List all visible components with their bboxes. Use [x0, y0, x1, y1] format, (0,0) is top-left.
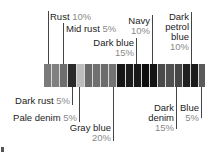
leader-dark-rust	[72, 87, 73, 105]
label-rust: Rust 10%	[50, 12, 91, 22]
label-blue-pct: 5%	[180, 113, 199, 123]
label-gray-blue-pct: 20%	[70, 133, 111, 143]
label-navy-pct: 10%	[128, 26, 150, 36]
leader-pale-denim	[79, 87, 80, 122]
bar-segment	[150, 64, 157, 87]
leader-rust	[48, 11, 49, 64]
label-dark-petrol-blue: Dark petrol blue 10%	[165, 12, 189, 52]
bar-segment	[134, 64, 141, 87]
leader-dark-denim	[176, 87, 177, 129]
bar-segment	[199, 64, 205, 87]
bar-segment	[142, 64, 149, 87]
bar-segment	[117, 64, 124, 87]
leader-dark-blue	[136, 38, 137, 64]
bar-segment	[52, 64, 59, 87]
leader-navy	[152, 15, 153, 64]
bar-segment	[175, 64, 182, 87]
bar-segment	[158, 64, 165, 87]
label-dark-blue-pct: 15%	[93, 48, 134, 58]
bar-segment	[101, 64, 108, 87]
bar-segment	[183, 64, 190, 87]
bar-segment	[60, 64, 67, 87]
label-rust-name: Rust	[50, 11, 70, 22]
leader-blue	[201, 87, 202, 118]
label-pale-denim-name: Pale denim	[13, 112, 61, 123]
label-pale-denim: Pale denim 5%	[13, 113, 77, 123]
bar-segment	[109, 64, 116, 87]
leader-mid-rust	[63, 23, 64, 64]
bar-segment	[85, 64, 92, 87]
label-dark-rust-name: Dark rust	[15, 95, 54, 106]
label-dark-rust: Dark rust 5%	[15, 96, 70, 106]
label-gray-blue: Gray blue 20%	[70, 123, 111, 143]
label-dark-denim: Dark denim 15%	[148, 103, 174, 133]
bar-segment	[166, 64, 173, 87]
label-dark-blue: Dark blue 15%	[93, 38, 134, 58]
label-mid-rust-pct: 5%	[102, 23, 116, 34]
bar-segment	[44, 64, 51, 87]
label-navy: Navy 10%	[128, 16, 150, 36]
label-dark-denim-pct: 15%	[148, 123, 174, 133]
corner-mark	[1, 147, 4, 152]
stacked-color-bar	[44, 64, 205, 87]
leader-dark-petrol-blue	[191, 12, 192, 64]
label-dark-petrol-blue-pct: 10%	[165, 42, 189, 52]
label-mid-rust-name: Mid rust	[66, 23, 100, 34]
bar-segment	[77, 64, 84, 87]
label-blue: Blue 5%	[180, 103, 199, 123]
label-mid-rust: Mid rust 5%	[66, 24, 116, 34]
bar-segment	[93, 64, 100, 87]
leader-gray-blue	[113, 87, 114, 141]
label-rust-pct: 10%	[72, 11, 91, 22]
bar-segment	[68, 64, 75, 87]
bar-segment	[191, 64, 198, 87]
bar-segment	[126, 64, 133, 87]
label-dark-rust-pct: 5%	[56, 95, 70, 106]
